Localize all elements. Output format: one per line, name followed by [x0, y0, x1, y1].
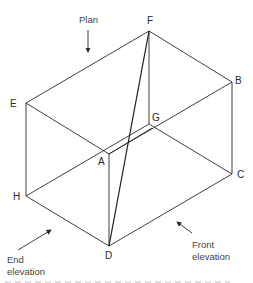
- box-diagram: F B E G A C H D Plan End elevation Front…: [0, 0, 253, 283]
- diagonal-f-d: [109, 31, 149, 246]
- end-elevation-label-1: End: [7, 254, 24, 265]
- edge-f-b: [149, 31, 232, 82]
- vertex-label-b: B: [235, 75, 242, 86]
- edge-e-f: [26, 31, 149, 103]
- vertex-label-g: G: [152, 112, 160, 123]
- front-elevation-label-1: Front: [192, 239, 215, 250]
- vertex-label-f: F: [147, 15, 153, 26]
- vertex-label-a: A: [98, 156, 105, 167]
- edge-h-d: [26, 196, 109, 246]
- vertex-label-h: H: [13, 191, 20, 202]
- end-elevation-label-2: elevation: [7, 266, 45, 277]
- plan-label: Plan: [79, 14, 98, 25]
- front-elevation-label-2: elevation: [192, 251, 230, 262]
- edge-h-g: [26, 124, 149, 196]
- edge-d-c: [109, 174, 232, 246]
- vertex-label-d: D: [105, 250, 112, 261]
- vertex-label-e: E: [10, 98, 17, 109]
- front-elevation-arrow: [177, 222, 192, 233]
- vertex-label-c: C: [237, 169, 244, 180]
- end-elevation-arrow: [18, 230, 51, 250]
- edge-g-c: [149, 124, 232, 174]
- edge-a-e: [26, 103, 109, 154]
